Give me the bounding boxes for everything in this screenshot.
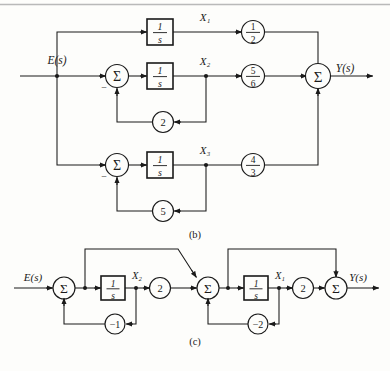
gain-numerator-middle: 5: [251, 66, 256, 76]
summer-symbol-output-b: Σ: [314, 69, 323, 85]
gain-numerator-bottom: 4: [251, 155, 256, 165]
caption-figure-c: (c): [189, 336, 201, 348]
caption-figure-b: (b): [189, 229, 202, 241]
integrator-denominator-middle: s: [158, 78, 162, 89]
gain-denominator-top: 2: [251, 35, 256, 45]
summer-symbol-c-output: Σ: [332, 281, 340, 296]
summer-symbol-c-1: Σ: [60, 281, 68, 296]
integrator-denominator-bottom: s: [158, 167, 162, 178]
feedback-gain-label-neg2: −2: [253, 319, 264, 330]
gain-label-c-forward-1: 2: [157, 283, 162, 294]
integrator-numerator-c-2: 1: [254, 279, 259, 289]
label-input-es-c: E(s): [23, 271, 43, 284]
label-input-es-b: E(s): [46, 54, 66, 67]
integrator-numerator-bottom: 1: [158, 154, 163, 165]
integrator-numerator-c-1: 1: [111, 279, 116, 289]
gain-denominator-bottom: 3: [251, 168, 256, 178]
integrator-denominator-top: s: [158, 34, 162, 45]
integrator-denominator-c-2: s: [254, 291, 258, 301]
summer-symbol-bottom: Σ: [113, 158, 121, 173]
sign-minus-middle: −: [101, 82, 107, 93]
sign-minus-bottom: −: [101, 171, 107, 182]
figure-page: E(s) Y(s) X₁ X₂ X₃ 1 s 1 s 1 s 1 2: [0, 0, 390, 371]
label-state-x3-b: X₃: [199, 144, 211, 156]
summer-symbol-middle: Σ: [113, 69, 121, 84]
feedback-gain-label-neg1: −1: [110, 319, 121, 330]
integrator-numerator-middle: 1: [158, 65, 163, 76]
feedback-gain-label-5: 5: [160, 206, 165, 217]
feedback-gain-label-2: 2: [160, 117, 165, 128]
gain-label-c-forward-2: 2: [300, 283, 305, 294]
gain-denominator-middle: 6: [251, 79, 256, 89]
label-state-x2-b: X₂: [199, 55, 211, 67]
label-output-ys-c: Y(s): [349, 271, 367, 284]
integrator-denominator-c-1: s: [111, 291, 115, 301]
label-state-x1-c: X₁: [274, 270, 285, 281]
label-state-x2-c: X₂: [131, 270, 142, 281]
summer-symbol-c-2: Σ: [204, 281, 212, 296]
gain-numerator-top: 1: [251, 22, 256, 32]
label-output-ys-b: Y(s): [336, 62, 355, 75]
label-state-x1-b: X₁: [199, 11, 211, 23]
integrator-numerator-top: 1: [158, 21, 163, 32]
